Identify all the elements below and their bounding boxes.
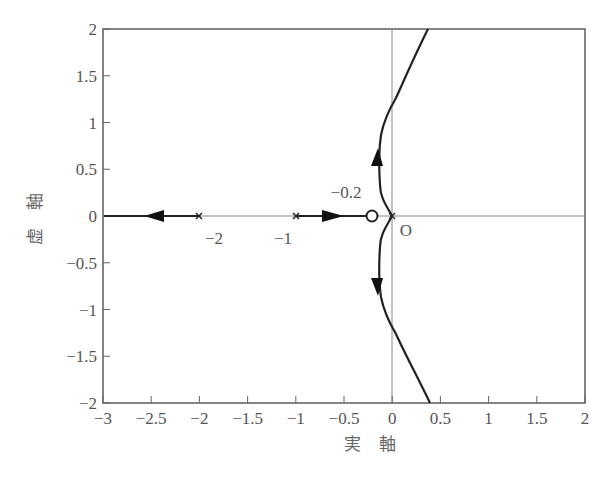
y-axis-title: 虚 軸 (25, 187, 45, 244)
arrow-up-icon (371, 148, 383, 166)
y-tick-label: 1.5 (76, 67, 97, 86)
zero-marker-icon (367, 211, 378, 222)
x-tick-label: −0.5 (329, 409, 360, 428)
annotation-zero-location: −0.2 (331, 183, 362, 202)
x-tick-label: −2.5 (136, 409, 167, 428)
y-tick-label: −1.5 (66, 347, 97, 366)
x-tick-label: 0.5 (430, 409, 451, 428)
x-tick-label: 1.5 (526, 409, 547, 428)
x-tick-labels: −3−2.5−2−1.5−1−0.500.511.52 (94, 409, 589, 428)
x-tick-label: 1 (484, 409, 493, 428)
y-tick-label: −0.5 (66, 254, 97, 273)
arrow-right-icon (322, 210, 344, 222)
annotation-minus-2: −2 (205, 229, 223, 248)
y-tick-label: 1 (89, 114, 98, 133)
y-tick-labels: 21.510.50−0.5−1−1.5−2 (66, 20, 97, 413)
x-tick-label: 2 (581, 409, 590, 428)
branch-upper (379, 29, 428, 216)
root-locus-plot: −2 −1 −0.2 O −3−2.5−2−1.5−1−0.500.511.52… (0, 0, 612, 481)
y-tick-label: −2 (79, 394, 97, 413)
direction-arrows (144, 148, 383, 296)
y-tick-label: 2 (89, 20, 98, 39)
x-axis-title: 実 軸 (344, 434, 401, 454)
y-tick-label: 0 (89, 207, 98, 226)
branch-lower (379, 216, 430, 403)
x-tick-label: −1.5 (232, 409, 263, 428)
annotation-minus-1: −1 (274, 229, 292, 248)
x-tick-label: 0 (388, 409, 397, 428)
x-tick-label: −1 (287, 409, 305, 428)
arrow-left-icon (144, 210, 164, 222)
annotation-origin: O (400, 221, 412, 240)
y-tick-label: −1 (79, 301, 97, 320)
x-ticks (103, 396, 585, 403)
x-tick-label: −2 (190, 409, 208, 428)
y-tick-label: 0.5 (76, 160, 97, 179)
